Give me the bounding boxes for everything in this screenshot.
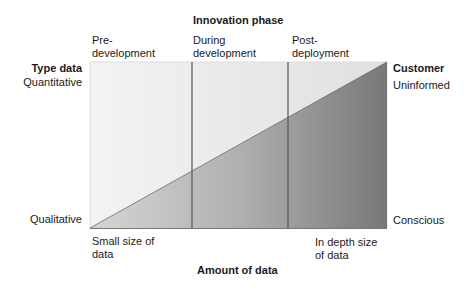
phase-label-pre-development: Pre- development: [92, 34, 155, 60]
in-depth-size-label: In depth size of data: [315, 236, 377, 262]
small-size-label: Small size of data: [92, 235, 154, 261]
amount-of-data-title: Amount of data: [197, 264, 278, 277]
innovation-phase-heading: Innovation phase: [193, 14, 283, 27]
phase-label-during-development: During development: [193, 34, 256, 60]
qualitative-label: Qualitative: [30, 213, 82, 226]
customer-title: Customer: [393, 62, 444, 75]
type-data-title: Type data: [31, 62, 82, 75]
quantitative-label: Quantitative: [23, 76, 82, 89]
uninformed-label: Uninformed: [393, 79, 450, 92]
phase-label-post-deployment: Post- deployment: [292, 34, 349, 60]
conscious-label: Conscious: [393, 214, 444, 227]
